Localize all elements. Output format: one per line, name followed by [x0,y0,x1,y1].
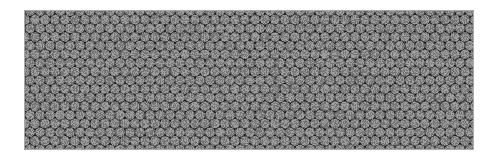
circle-feature [435,93,444,102]
circle-feature [325,110,334,119]
circle-feature [385,128,394,137]
circle-feature [385,110,394,119]
circle-feature [315,93,324,102]
circle-feature [445,93,454,102]
circle-feature [410,136,419,145]
circle-feature [255,128,264,137]
circle-feature [120,119,129,128]
circle-feature [325,58,334,67]
circle-feature [40,32,49,41]
circle-feature [455,128,464,137]
circle-feature [220,15,229,24]
circle-feature [385,93,394,102]
circle-feature [85,76,94,85]
circle-feature [360,32,369,41]
circle-feature [205,24,214,33]
circle-feature [465,41,474,50]
circle-feature [465,128,474,137]
circle-feature [125,110,134,119]
circle-feature [185,24,194,33]
circle-feature [225,93,234,102]
circle-feature [165,93,174,102]
circle-feature [40,84,49,93]
circle-feature [320,67,329,76]
circle-feature [305,58,314,67]
circle-feature [375,24,384,33]
circle-feature [370,84,379,93]
circle-feature [245,110,254,119]
circle-feature [265,93,274,102]
circle-feature [400,67,409,76]
circle-feature [320,84,329,93]
circle-feature [110,119,119,128]
circle-feature [285,76,294,85]
circle-feature [385,24,394,33]
circle-feature [235,41,244,50]
circle-feature [240,84,249,93]
circle-feature [350,32,359,41]
circle-feature [220,32,229,41]
circle-feature [440,84,449,93]
circle-feature [135,41,144,50]
circle-feature [400,136,409,145]
circle-feature [345,24,354,33]
circle-feature [195,58,204,67]
circle-feature [50,32,59,41]
circle-feature [340,136,349,145]
circle-feature [35,93,44,102]
circle-feature [40,50,49,59]
circle-feature [270,102,279,111]
circle-feature [395,58,404,67]
circle-feature [205,41,214,50]
circle-feature [345,110,354,119]
circle-feature [170,15,179,24]
circle-feature [420,32,429,41]
circle-feature [275,41,284,50]
circle-feature [40,15,49,24]
circle-feature [360,84,369,93]
circle-feature [310,15,319,24]
circle-feature [380,32,389,41]
circle-feature [440,15,449,24]
circle-feature [90,119,99,128]
circle-feature [330,102,339,111]
circle-feature [250,136,259,145]
circle-feature [160,32,169,41]
circle-feature [35,128,44,137]
circle-feature [395,110,404,119]
circle-feature [365,76,374,85]
circle-feature [70,136,79,145]
circle-feature [85,128,94,137]
circle-feature [435,24,444,33]
circle-feature [205,110,214,119]
circle-feature [255,58,264,67]
circle-feature [355,93,364,102]
circle-feature [220,67,229,76]
circle-feature [185,128,194,137]
circle-feature [330,119,339,128]
circle-feature [140,50,149,59]
circle-feature [150,32,159,41]
circle-feature [280,119,289,128]
circle-feature [420,15,429,24]
circle-feature [270,119,279,128]
circle-feature [190,32,199,41]
circle-feature [145,110,154,119]
circle-feature [90,102,99,111]
circle-feature [225,24,234,33]
circle-feature [30,15,39,24]
circle-feature [170,102,179,111]
circle-feature [440,136,449,145]
circle-feature [370,67,379,76]
circle-feature [425,76,434,85]
circle-feature [135,58,144,67]
circle-feature [465,93,474,102]
circle-feature [390,119,399,128]
circle-feature [315,110,324,119]
circle-feature [320,102,329,111]
circle-feature [50,15,59,24]
circle-feature [35,58,44,67]
circle-feature [225,110,234,119]
circle-feature [145,128,154,137]
circle-feature [460,136,469,145]
